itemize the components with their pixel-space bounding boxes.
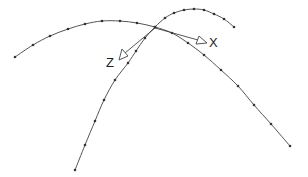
curve-point [94,120,97,123]
curve-point [203,9,206,12]
diagram-canvas: X Z [0,0,308,177]
curve-point [223,18,226,21]
x-axis-label: X [209,35,218,50]
curve-point [67,28,70,31]
curve-point [187,42,190,45]
curve-point [213,13,216,16]
curve-a [15,21,290,146]
curve-point [173,12,176,15]
curve-point [233,26,236,29]
curve-point [289,145,292,148]
z-axis-arrow [119,28,155,60]
curve-point [127,62,130,65]
curve-point [114,79,117,82]
curve-point [253,104,256,107]
curve-point [237,85,240,88]
curve-point [136,22,139,25]
curve-point [32,44,35,47]
curve-point [135,50,138,53]
curve-point [74,169,77,172]
z-axis-label: Z [106,55,114,70]
curves-group [14,8,292,172]
z-arrowhead-icon [119,49,128,60]
curve-point [220,69,223,72]
curve-point [84,23,87,26]
curve-point [14,56,17,59]
curve-point [164,17,167,20]
x-axis-arrow [155,28,207,44]
curve-point [270,123,273,126]
curve-point [49,35,52,38]
curve-point [84,144,87,147]
curve-point [183,9,186,12]
curve-point [103,99,106,102]
curve-point [119,20,122,23]
curve-point [193,8,196,11]
curve-point [101,20,104,23]
x-arrowhead-icon [196,36,207,44]
curve-point [203,54,206,57]
curve-b [75,9,234,170]
